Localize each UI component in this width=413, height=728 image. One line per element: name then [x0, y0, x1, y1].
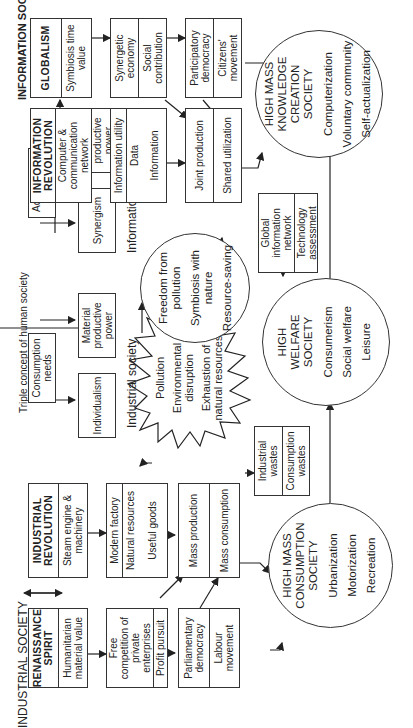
diagram-canvas: INDUSTRIAL SOCIETY INFORMATION SOCIETY T…: [0, 0, 413, 728]
social-contribution-text: Social contribution: [138, 19, 166, 97]
consumption-needs-text: Consumption needs: [29, 334, 55, 402]
mass-box: Mass production Mass consumption: [178, 483, 240, 578]
renaissance-title: RENAISSANCE SPIRIT: [29, 609, 58, 687]
industrial-revolution-box: INDUSTRIAL REVOLUTION Steam engine & mac…: [28, 483, 88, 578]
labour-movement-text: Labour movement: [209, 609, 240, 687]
consumption-needs-box: Consumption needs: [28, 333, 56, 403]
joint-box: Joint production Shared utilization: [185, 108, 242, 203]
computerization-text: Computerization: [322, 52, 335, 136]
motorization-text: Motorization: [346, 534, 359, 597]
mass-consumption-society-circle: HIGH MASS CONSUMPTION SOCIETY Urbanizati…: [268, 503, 393, 628]
synergetic-box: Synergetic economy Social contribution: [110, 18, 167, 98]
industrial-revolution-body: Steam engine & machinery: [58, 484, 88, 577]
information-utility-text: Information utility: [111, 109, 126, 202]
globalism-box: GLOBALISM Symbiosis time value: [30, 18, 92, 98]
profit-pursuit-text: Profit pursuit: [153, 609, 167, 687]
nature-circle: Freedom from pollution Symbiosis with na…: [140, 233, 250, 343]
information-utility-box: Information utility Data Information: [110, 108, 167, 203]
industrial-society-lower-label: Industrial society: [125, 339, 139, 428]
environmental-disruption-text: Environmental disruption: [171, 328, 196, 428]
symbiosis-with-nature-text: Symbiosis with nature: [189, 234, 215, 342]
mass-production-text: Mass production: [179, 484, 209, 577]
resource-saving-text: Resource-saving: [221, 245, 234, 331]
welfare-society-title: HIGH WELFARE SOCIETY: [276, 307, 315, 377]
material-power-box: Material productive power: [78, 293, 116, 358]
recreation-text: Recreation: [365, 538, 378, 594]
natural-resources-text: Natural resources: [122, 484, 138, 577]
voluntary-community-text: Voluntary community: [341, 41, 354, 148]
social-welfare-text: Social welfare: [341, 306, 354, 378]
industrial-wastes-text: Industrial wastes: [255, 427, 282, 495]
urbanization-text: Urbanization: [327, 533, 340, 598]
global-network-box: Global information network Technology as…: [258, 193, 318, 273]
free-competition-text: Free competition of private enterprises: [107, 609, 153, 687]
exhaustion-text: Exhaustion of natural resources: [200, 328, 225, 428]
global-information-network-text: Global information network: [259, 194, 294, 272]
wastes-box: Industrial wastes Consumption wastes: [254, 426, 310, 496]
freedom-from-pollution-text: Freedom from pollution: [157, 234, 183, 342]
parliamentary-box: Parliamentary democracy Labour movement: [178, 608, 240, 688]
shared-utilization-text: Shared utilization: [213, 109, 241, 202]
individualism-box: Individualism: [78, 373, 116, 438]
information-revolution-box: INFORMATION REVOLUTION Computer & commun…: [30, 108, 92, 203]
information-text: Information: [142, 109, 166, 202]
participatory-box: Participatory democracy Citizens' moveme…: [185, 18, 242, 98]
pollution-text: Pollution: [154, 328, 167, 428]
renaissance-body: Humanitarian material value: [58, 609, 88, 687]
welfare-society-circle: HIGH WELFARE SOCIETY Consumerism Social …: [262, 278, 390, 406]
synergetic-economy-text: Synergetic economy: [111, 19, 138, 97]
consumption-wastes-text: Consumption wastes: [282, 427, 310, 495]
mass-consumption-society-title: HIGH MASS CONSUMPTION SOCIETY: [281, 521, 320, 611]
information-revolution-body: Computer & communication network: [55, 109, 91, 202]
free-competition-box: Free competition of private enterprises …: [106, 608, 168, 688]
mass-consumption-text: Mass consumption: [209, 484, 240, 577]
renaissance-spirit-box: RENAISSANCE SPIRIT Humanitarian material…: [28, 608, 88, 688]
knowledge-creation-society-circle: HIGH MASS KNOWLEDGE CREATION SOCIETY Com…: [255, 30, 383, 158]
consumerism-text: Consumerism: [322, 307, 335, 378]
material-power-text: Material productive power: [79, 294, 115, 357]
citizens-movement-text: Citizens' movement: [213, 19, 241, 97]
parliamentary-democracy-text: Parliamentary democracy: [179, 609, 209, 687]
technology-assessment-text: Technology assessment: [294, 194, 319, 272]
information-society-label: INFORMATION SOCIETY: [16, 0, 28, 100]
participatory-democracy-text: Participatory democracy: [186, 19, 213, 97]
data-text: Data: [126, 109, 142, 202]
individualism-text: Individualism: [79, 374, 115, 437]
globalism-title: GLOBALISM: [31, 19, 61, 97]
information-revolution-title: INFORMATION REVOLUTION: [31, 109, 55, 202]
knowledge-creation-society-title: HIGH MASS KNOWLEDGE CREATION SOCIETY: [263, 39, 315, 149]
useful-goods-text: Useful goods: [138, 484, 167, 577]
industrial-revolution-title: INDUSTRIAL REVOLUTION: [29, 484, 58, 577]
self-actualization-text: Self-actualization: [360, 50, 373, 138]
modern-factory-text: Modern factory: [107, 484, 122, 577]
joint-production-text: Joint production: [186, 109, 213, 202]
modern-factory-box: Modern factory Natural resources Useful …: [106, 483, 168, 578]
environmental-burst: Pollution Environmental disruption Exhau…: [150, 328, 229, 428]
leisure-text: Leisure: [360, 323, 373, 361]
globalism-body: Symbiosis time value: [61, 19, 92, 97]
